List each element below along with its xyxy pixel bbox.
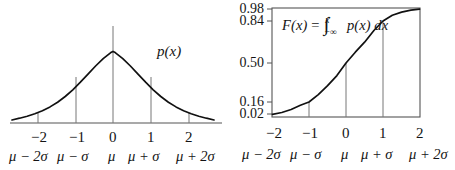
pdf-xtick-symbol: μ + σ [128, 149, 159, 164]
cdf-ytick-label: 0.84 [228, 14, 264, 28]
cdf-xtick-symbol: μ − σ [290, 147, 321, 162]
cdf-ytick-label: 0.50 [228, 56, 264, 70]
cdf-xtick-number: 2 [416, 126, 424, 141]
panel-cdf: F(x)=∫x−∞p(x) dx 0.98 0.84 0.50 0.16 0.0… [228, 0, 455, 170]
pdf-xtick-symbol: μ − σ [57, 149, 88, 164]
cdf-xtick-number: −2 [266, 126, 282, 141]
cdf-xtick-symbol: μ − 2σ [242, 147, 281, 162]
cdf-xtick-number: 1 [379, 126, 387, 141]
cdf-ytick-label: 0.02 [228, 107, 264, 121]
pdf-xtick-number: 0 [109, 130, 117, 145]
cdf-xtick-symbol: μ + 2σ [409, 147, 448, 162]
cdf-formula: F(x)=∫x−∞p(x) dx [282, 13, 388, 33]
pdf-xtick-number: −2 [31, 130, 47, 145]
cdf-formula-lhs: F(x) [282, 17, 307, 33]
cdf-xtick-symbol: μ [341, 147, 348, 162]
pdf-xtick-number: −1 [69, 130, 85, 145]
pdf-xtick-symbol: μ + 2σ [176, 149, 215, 164]
panel-pdf: p(x) −2 −1 0 1 2 μ − 2σ μ − σ μ μ + σ μ … [0, 0, 228, 170]
cdf-formula-upper-limit: x [325, 15, 329, 25]
pdf-xtick-symbol: μ − 2σ [9, 149, 48, 164]
cdf-xtick-number: 0 [342, 126, 350, 141]
pdf-xtick-number: 2 [185, 130, 193, 145]
cdf-xtick-number: −1 [302, 126, 318, 141]
figure-root: p(x) −2 −1 0 1 2 μ − 2σ μ − σ μ μ + σ μ … [0, 0, 455, 170]
cdf-formula-integrand: p(x) dx [346, 17, 388, 33]
cdf-formula-equals: = [307, 17, 323, 33]
pdf-xtick-number: 1 [147, 130, 155, 145]
pdf-xtick-symbol: μ [108, 149, 115, 164]
cdf-xtick-symbol: μ + σ [361, 147, 392, 162]
pdf-curve-label: p(x) [157, 44, 181, 59]
cdf-formula-lower-limit: −∞ [325, 27, 337, 37]
